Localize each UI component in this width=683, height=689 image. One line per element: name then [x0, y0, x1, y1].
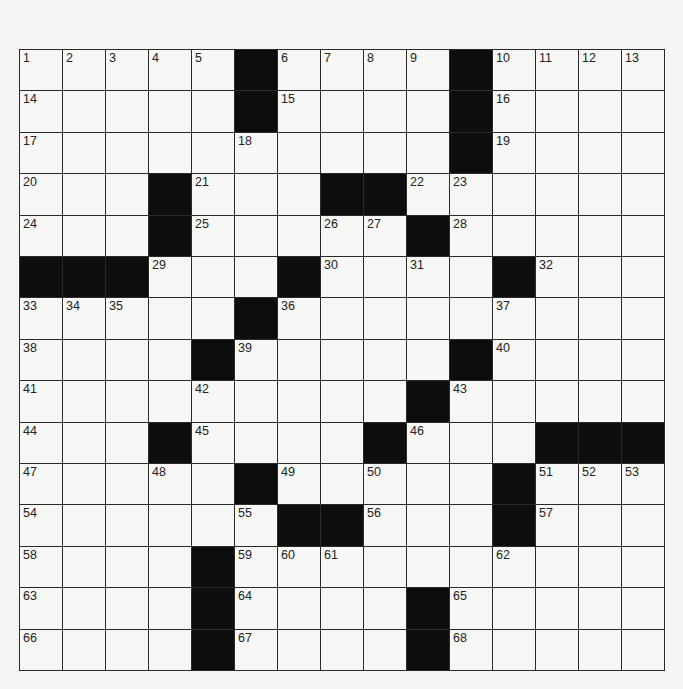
- grid-cell[interactable]: [536, 91, 578, 131]
- grid-cell[interactable]: [622, 381, 664, 421]
- grid-cell[interactable]: 2: [63, 50, 105, 90]
- grid-cell[interactable]: [149, 588, 191, 628]
- grid-cell[interactable]: 60: [278, 547, 320, 587]
- grid-cell[interactable]: [63, 216, 105, 256]
- grid-cell[interactable]: 50: [364, 464, 406, 504]
- grid-cell[interactable]: [63, 174, 105, 214]
- grid-cell[interactable]: 33: [20, 298, 62, 338]
- grid-cell[interactable]: 31: [407, 257, 449, 297]
- grid-cell[interactable]: [364, 133, 406, 173]
- grid-cell[interactable]: [278, 340, 320, 380]
- grid-cell[interactable]: [149, 298, 191, 338]
- grid-cell[interactable]: [149, 133, 191, 173]
- grid-cell[interactable]: 55: [235, 505, 277, 545]
- grid-cell[interactable]: [63, 588, 105, 628]
- grid-cell[interactable]: 15: [278, 91, 320, 131]
- grid-cell[interactable]: 5: [192, 50, 234, 90]
- grid-cell[interactable]: [321, 423, 363, 463]
- grid-cell[interactable]: [63, 423, 105, 463]
- grid-cell[interactable]: 13: [622, 50, 664, 90]
- grid-cell[interactable]: 64: [235, 588, 277, 628]
- grid-cell[interactable]: 25: [192, 216, 234, 256]
- grid-cell[interactable]: [407, 464, 449, 504]
- grid-cell[interactable]: [622, 505, 664, 545]
- grid-cell[interactable]: [622, 133, 664, 173]
- grid-cell[interactable]: [450, 298, 492, 338]
- grid-cell[interactable]: [579, 547, 621, 587]
- grid-cell[interactable]: 26: [321, 216, 363, 256]
- grid-cell[interactable]: [450, 464, 492, 504]
- grid-cell[interactable]: [321, 381, 363, 421]
- grid-cell[interactable]: [407, 298, 449, 338]
- grid-cell[interactable]: [536, 174, 578, 214]
- grid-cell[interactable]: [278, 174, 320, 214]
- grid-cell[interactable]: [106, 464, 148, 504]
- grid-cell[interactable]: [364, 340, 406, 380]
- grid-cell[interactable]: [407, 133, 449, 173]
- grid-cell[interactable]: [622, 257, 664, 297]
- grid-cell[interactable]: 23: [450, 174, 492, 214]
- grid-cell[interactable]: [493, 216, 535, 256]
- grid-cell[interactable]: [321, 133, 363, 173]
- grid-cell[interactable]: 44: [20, 423, 62, 463]
- grid-cell[interactable]: [278, 216, 320, 256]
- grid-cell[interactable]: [407, 547, 449, 587]
- grid-cell[interactable]: [364, 547, 406, 587]
- grid-cell[interactable]: [622, 216, 664, 256]
- grid-cell[interactable]: [536, 216, 578, 256]
- grid-cell[interactable]: 53: [622, 464, 664, 504]
- grid-cell[interactable]: 47: [20, 464, 62, 504]
- grid-cell[interactable]: 30: [321, 257, 363, 297]
- grid-cell[interactable]: [364, 588, 406, 628]
- grid-cell[interactable]: [450, 505, 492, 545]
- grid-cell[interactable]: [149, 505, 191, 545]
- grid-cell[interactable]: [536, 133, 578, 173]
- grid-cell[interactable]: [278, 588, 320, 628]
- grid-cell[interactable]: [622, 630, 664, 670]
- grid-cell[interactable]: [235, 174, 277, 214]
- grid-cell[interactable]: [579, 340, 621, 380]
- grid-cell[interactable]: [106, 174, 148, 214]
- grid-cell[interactable]: [106, 91, 148, 131]
- grid-cell[interactable]: [321, 464, 363, 504]
- grid-cell[interactable]: [192, 257, 234, 297]
- grid-cell[interactable]: [622, 340, 664, 380]
- grid-cell[interactable]: 43: [450, 381, 492, 421]
- grid-cell[interactable]: [235, 257, 277, 297]
- grid-cell[interactable]: 3: [106, 50, 148, 90]
- grid-cell[interactable]: [579, 257, 621, 297]
- grid-cell[interactable]: 40: [493, 340, 535, 380]
- grid-cell[interactable]: [493, 423, 535, 463]
- grid-cell[interactable]: [106, 133, 148, 173]
- grid-cell[interactable]: [364, 257, 406, 297]
- grid-cell[interactable]: 4: [149, 50, 191, 90]
- grid-cell[interactable]: [106, 381, 148, 421]
- grid-cell[interactable]: 57: [536, 505, 578, 545]
- grid-cell[interactable]: 11: [536, 50, 578, 90]
- grid-cell[interactable]: 1: [20, 50, 62, 90]
- grid-cell[interactable]: [493, 630, 535, 670]
- grid-cell[interactable]: 36: [278, 298, 320, 338]
- grid-cell[interactable]: [536, 298, 578, 338]
- grid-cell[interactable]: [321, 630, 363, 670]
- grid-cell[interactable]: [622, 547, 664, 587]
- grid-cell[interactable]: 9: [407, 50, 449, 90]
- grid-cell[interactable]: 59: [235, 547, 277, 587]
- grid-cell[interactable]: [63, 381, 105, 421]
- grid-cell[interactable]: [493, 588, 535, 628]
- grid-cell[interactable]: 63: [20, 588, 62, 628]
- grid-cell[interactable]: 48: [149, 464, 191, 504]
- grid-cell[interactable]: [321, 340, 363, 380]
- grid-cell[interactable]: 54: [20, 505, 62, 545]
- grid-cell[interactable]: 34: [63, 298, 105, 338]
- grid-cell[interactable]: [622, 588, 664, 628]
- grid-cell[interactable]: [106, 505, 148, 545]
- grid-cell[interactable]: 66: [20, 630, 62, 670]
- grid-cell[interactable]: [450, 423, 492, 463]
- grid-cell[interactable]: [579, 298, 621, 338]
- grid-cell[interactable]: [149, 91, 191, 131]
- grid-cell[interactable]: [407, 91, 449, 131]
- grid-cell[interactable]: 35: [106, 298, 148, 338]
- grid-cell[interactable]: [407, 505, 449, 545]
- grid-cell[interactable]: 52: [579, 464, 621, 504]
